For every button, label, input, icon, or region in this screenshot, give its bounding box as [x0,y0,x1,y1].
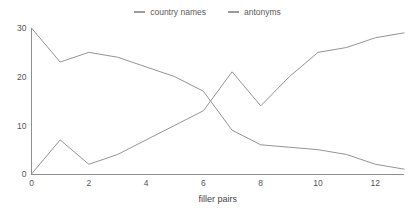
x-tick-label: 4 [144,178,149,188]
x-tick-label: 10 [313,178,323,188]
x-tick-label: 6 [201,178,206,188]
y-tick-label: 30 [17,23,27,33]
x-axis-title: filler pairs [198,194,237,204]
axis-lines [32,28,405,174]
series-line-country-names [32,28,405,169]
plot-area: 0102030 024681012 filler pairs [0,0,415,208]
y-axis-tick-labels: 0102030 [17,23,27,179]
line-chart: country names antonyms 0102030 024681012… [0,0,415,208]
y-tick-label: 10 [17,121,27,131]
y-tick-label: 0 [22,169,27,179]
series-line-antonyms [32,33,405,174]
x-tick-label: 12 [371,178,381,188]
x-axis-tick-labels: 024681012 [29,178,380,188]
data-series-group [32,28,405,174]
x-tick-label: 2 [86,178,91,188]
x-tick-label: 0 [29,178,34,188]
y-tick-label: 20 [17,72,27,82]
x-tick-label: 8 [258,178,263,188]
